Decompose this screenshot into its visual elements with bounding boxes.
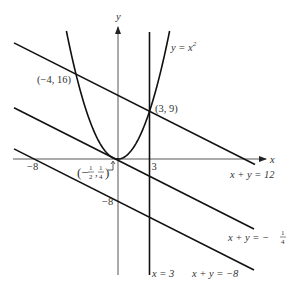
line-12-label: x + y = 12 xyxy=(229,169,275,180)
point-label-vertex: (− 1 2 , 1 4 ) xyxy=(77,161,115,181)
line-x-plus-y-neg-8 xyxy=(14,149,254,270)
svg-text:): ) xyxy=(105,165,109,180)
svg-text:1: 1 xyxy=(281,229,285,237)
y-axis-label: y xyxy=(115,11,121,22)
tick-label-x-3: 3 xyxy=(152,161,157,172)
line-neg-8-label: x + y = −8 xyxy=(191,268,239,279)
point-label-neg4-16: (−4, 16) xyxy=(37,74,71,86)
tick-label-y-neg8: −8 xyxy=(102,196,113,207)
line-x-plus-y-neg-quarter xyxy=(14,108,254,229)
diagram-canvas: x y −8 3 −8 y = x2 x + y = 12 x + y = − … xyxy=(0,0,298,295)
line-x-3-label: x = 3 xyxy=(151,268,174,279)
svg-text:1: 1 xyxy=(89,164,93,172)
point-label-3-9: (3, 9) xyxy=(155,103,178,115)
line-neg-quarter-label: x + y = − 1 4 xyxy=(227,229,286,246)
tick-label-x-neg8: −8 xyxy=(27,161,38,172)
svg-text:x + y = −: x + y = − xyxy=(227,232,269,243)
svg-text:1: 1 xyxy=(99,164,103,172)
svg-text:4: 4 xyxy=(281,238,285,246)
svg-text:(−: (− xyxy=(77,165,89,180)
svg-text:2: 2 xyxy=(89,173,93,181)
parabola-label: y = x2 xyxy=(170,40,197,53)
svg-text:4: 4 xyxy=(99,173,103,181)
x-axis-label: x xyxy=(269,154,275,165)
svg-text:,: , xyxy=(95,167,98,178)
